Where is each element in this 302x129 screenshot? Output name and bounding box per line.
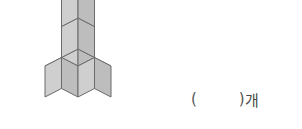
cube-group — [45, 0, 111, 97]
unit-label: 개 — [245, 89, 259, 110]
question-figure-page: ( ) 개 — [0, 0, 302, 129]
answer-container: ( ) 개 — [151, 0, 302, 129]
cube-figure-container — [0, 0, 151, 129]
cube-base-right — [78, 58, 111, 98]
isometric-cube-figure — [0, 0, 151, 129]
cube-base-left — [45, 58, 78, 98]
answer-blank-line[interactable]: ( ) 개 — [191, 86, 297, 112]
open-paren: ( — [191, 90, 197, 108]
